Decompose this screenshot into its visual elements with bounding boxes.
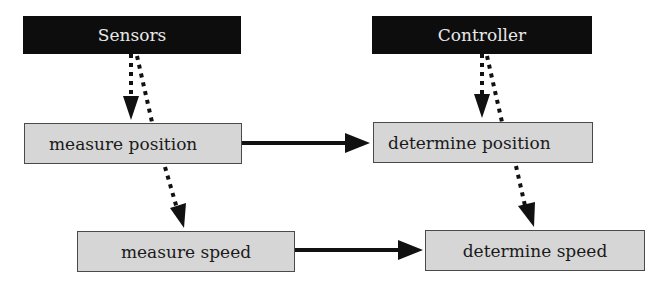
node-label: determine speed <box>463 241 608 261</box>
arrowhead-icon <box>170 203 186 228</box>
node-label: Controller <box>438 25 526 45</box>
node-determine-position: determine position <box>373 122 593 163</box>
edge-measure-position-measure-speed <box>165 167 186 228</box>
edge-controller-determine-position <box>474 54 502 122</box>
node-controller: Controller <box>372 16 592 54</box>
edge-determine-position-determine-speed <box>516 166 535 227</box>
arrowhead-icon <box>123 96 139 120</box>
edge-sensors-measure-position <box>123 54 152 122</box>
node-label: measure speed <box>121 242 251 262</box>
edge-measure-speed-determine-speed <box>295 240 423 260</box>
arrowhead-icon <box>398 240 423 260</box>
node-determine-speed: determine speed <box>425 230 645 271</box>
edge-measure-position-determine-position <box>242 133 370 153</box>
node-measure-speed: measure speed <box>77 231 295 272</box>
node-label: Sensors <box>98 25 166 45</box>
arrowhead-icon <box>345 133 370 153</box>
arrowhead-icon <box>518 202 535 227</box>
node-label: measure position <box>49 134 197 154</box>
node-sensors: Sensors <box>23 16 241 54</box>
node-measure-position: measure position <box>24 123 242 164</box>
arrowhead-icon <box>474 94 490 118</box>
node-label: determine position <box>388 133 551 153</box>
